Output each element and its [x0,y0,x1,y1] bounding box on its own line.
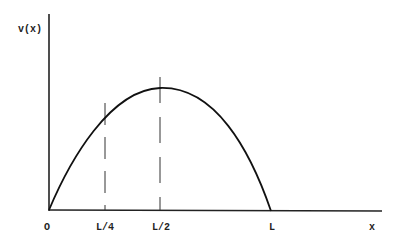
x-axis-label: x [369,222,375,233]
span-length-label: L [269,222,275,233]
deflection-curve [49,88,271,211]
beam-deflection-diagram: v(x) O L/4 L/2 L x [0,0,404,244]
y-axis-label: v(x) [18,24,42,35]
mid-span-label: L/2 [152,222,170,233]
x-axis [49,210,382,211]
origin-label: O [44,222,50,233]
quarter-span-label: L/4 [96,222,114,233]
